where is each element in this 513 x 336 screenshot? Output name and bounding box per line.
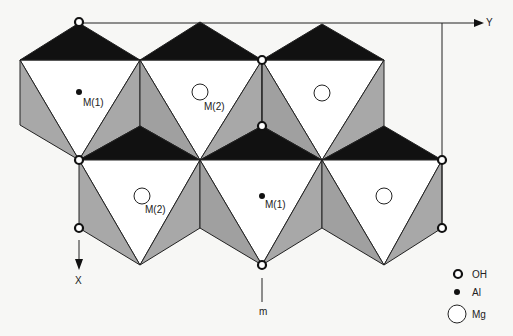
site-label-m1-top: M(1) [83,98,104,108]
site-label-m2-bottom: M(2) [145,205,166,215]
y-axis-label: Y [486,18,493,28]
legend-al-label: Al [472,288,481,298]
black-face-top-1 [20,23,140,60]
x-axis-label: X [75,276,82,286]
mirror-plane-label: m [259,307,267,317]
legend-oh-label: OH [472,270,487,280]
octahedral-sheet-diagram: Y X m M(1) M(2) M(2) M(1) OH Al Mg [0,0,513,336]
site-label-m1-bottom: M(1) [265,200,286,210]
black-face-top-2 [140,22,262,60]
site-label-m2-top: M(2) [204,102,225,112]
x-axis-arrow-icon [75,259,83,270]
black-face-top-3 [262,24,384,60]
y-axis-arrow-icon [474,19,484,27]
legend-mg-label: Mg [472,310,486,320]
